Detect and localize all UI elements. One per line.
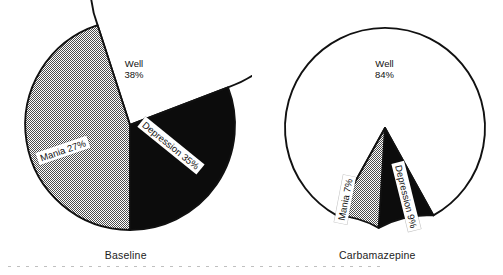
panel-caption-baseline: Baseline xyxy=(0,249,252,261)
slice-label-well-text: Well xyxy=(125,58,143,69)
pie-chart-carbamazepine xyxy=(252,0,503,275)
panel-caption-carbamazepine: Carbamazepine xyxy=(252,249,503,261)
slice-label-well-text: Well xyxy=(375,58,393,69)
pie-panel-baseline: Well 38% Mania 27% Depression 35% Baseli… xyxy=(0,0,252,275)
slice-label-well: Well 84% xyxy=(363,58,407,80)
pie-panel-carbamazepine: Well 84% Mania 7% Depression 9% Carbamaz… xyxy=(252,0,503,275)
slice-label-well: Well 38% xyxy=(112,58,156,80)
slice-label-well-pct: 84% xyxy=(363,69,407,80)
slice-label-well-pct: 38% xyxy=(112,69,156,80)
scan-artifact-line xyxy=(8,266,383,267)
figure-two-pie-charts: Well 38% Mania 27% Depression 35% Baseli… xyxy=(0,0,503,275)
pie-chart-baseline xyxy=(0,0,252,275)
